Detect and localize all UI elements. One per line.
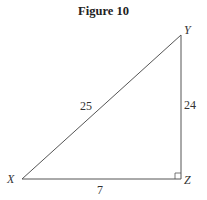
vertex-label-z: Z xyxy=(184,173,191,187)
right-triangle-diagram: X Y Z 25 24 7 xyxy=(0,0,207,200)
side-label-xz: 7 xyxy=(97,183,103,197)
side-label-yz: 24 xyxy=(184,98,196,112)
triangle-xyz xyxy=(22,35,181,179)
vertex-label-x: X xyxy=(6,172,15,186)
right-angle-marker xyxy=(175,173,181,179)
side-label-xy: 25 xyxy=(80,99,92,113)
vertex-label-y: Y xyxy=(184,23,192,37)
